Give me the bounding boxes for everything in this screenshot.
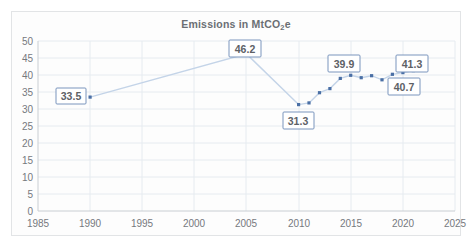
x-tick-1995: 1995 [131, 218, 154, 229]
y-tick-45: 45 [22, 53, 34, 64]
emissions-series-line [90, 54, 413, 105]
data-point-2019[interactable] [391, 73, 394, 76]
x-tick-2000: 2000 [183, 218, 206, 229]
x-tick-2010: 2010 [288, 218, 311, 229]
data-point-2017[interactable] [370, 74, 373, 77]
data-label-text: 40.7 [394, 81, 415, 93]
data-point-2013[interactable] [328, 87, 331, 90]
y-tick-0: 0 [27, 206, 33, 217]
line-chart-plot: 50 45 40 35 30 25 20 15 10 5 0 1985 1990… [0, 0, 473, 248]
data-label-text: 39.9 [334, 58, 355, 70]
data-point-2014[interactable] [339, 77, 342, 80]
data-label-text: 33.5 [61, 90, 82, 102]
x-tick-2020: 2020 [392, 218, 415, 229]
y-tick-15: 15 [22, 155, 34, 166]
data-point-1990[interactable] [89, 96, 92, 99]
y-tick-5: 5 [27, 189, 33, 200]
x-tick-2015: 2015 [340, 218, 363, 229]
y-axis-tick-labels: 50 45 40 35 30 25 20 15 10 5 0 [22, 36, 34, 217]
data-point-2011[interactable] [307, 101, 310, 104]
data-point-2010[interactable] [297, 103, 300, 106]
data-label-text: 46.2 [235, 43, 256, 55]
x-axis-tick-labels: 1985 1990 1995 2000 2005 2010 2015 2020 … [27, 218, 467, 229]
y-tick-20: 20 [22, 138, 34, 149]
x-tick-2005: 2005 [235, 218, 258, 229]
y-tick-50: 50 [22, 36, 34, 47]
y-tick-30: 30 [22, 104, 34, 115]
data-label-text: 31.3 [288, 115, 309, 127]
data-label-39-9[interactable]: 39.9 [328, 55, 360, 72]
data-label-31-3[interactable]: 31.3 [283, 112, 314, 129]
y-tick-40: 40 [22, 70, 34, 81]
data-point-2018[interactable] [380, 78, 383, 81]
data-label-40-7[interactable]: 40.7 [388, 78, 420, 95]
x-tick-1985: 1985 [27, 218, 50, 229]
data-label-text: 41.3 [402, 58, 423, 70]
data-point-2012[interactable] [318, 91, 321, 94]
y-tick-10: 10 [22, 172, 34, 183]
y-tick-25: 25 [22, 121, 34, 132]
data-point-2016[interactable] [360, 76, 363, 79]
emissions-series-markers [89, 52, 415, 106]
x-tick-1990: 1990 [79, 218, 102, 229]
data-point-2015[interactable] [349, 74, 352, 77]
x-tick-2025: 2025 [444, 218, 467, 229]
y-tick-35: 35 [22, 87, 34, 98]
data-label-46-2[interactable]: 46.2 [229, 40, 261, 57]
data-label-33-5[interactable]: 33.5 [56, 88, 86, 104]
data-label-41-3[interactable]: 41.3 [396, 55, 428, 72]
